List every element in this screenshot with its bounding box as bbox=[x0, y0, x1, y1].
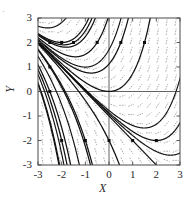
y-tick-label: -1 bbox=[16, 110, 32, 121]
initial-point-marker bbox=[72, 41, 75, 44]
y-tick-label: -2 bbox=[16, 135, 32, 146]
y-tick-label: 1 bbox=[16, 61, 32, 72]
trajectory-curve bbox=[24, 28, 188, 141]
initial-point-marker bbox=[131, 139, 134, 142]
x-tick-label: 2 bbox=[148, 169, 164, 180]
y-axis-title: Y bbox=[3, 79, 18, 101]
y-tick-label: 3 bbox=[16, 12, 32, 23]
initial-point-marker bbox=[119, 41, 122, 44]
initial-point-marker bbox=[155, 139, 158, 142]
initial-point-marker bbox=[96, 41, 99, 44]
x-tick-label: 3 bbox=[172, 169, 188, 180]
y-tick-label: 0 bbox=[16, 86, 32, 97]
initial-point-marker bbox=[84, 139, 87, 142]
trajectory-curve bbox=[24, 0, 127, 57]
initial-point-marker bbox=[60, 41, 63, 44]
trajectory-curve bbox=[24, 0, 111, 43]
initial-point-marker bbox=[60, 139, 63, 142]
x-tick-label: 0 bbox=[101, 169, 117, 180]
phase-portrait-figure: · -3-2-10123 -3-2-10123 Y X bbox=[0, 0, 188, 197]
x-axis-title: X bbox=[99, 181, 106, 196]
x-tick-label: -3 bbox=[30, 169, 46, 180]
initial-point-marker bbox=[48, 41, 51, 44]
y-tick-label: 2 bbox=[16, 37, 32, 48]
trajectory-curve bbox=[24, 0, 95, 28]
initial-point-marker bbox=[48, 66, 51, 69]
x-tick-label: 1 bbox=[125, 169, 141, 180]
x-tick-label: -1 bbox=[77, 169, 93, 180]
initial-point-marker bbox=[48, 90, 51, 93]
x-tick-label: -2 bbox=[54, 169, 70, 180]
initial-point-marker bbox=[143, 41, 146, 44]
initial-point-marker bbox=[108, 139, 111, 142]
